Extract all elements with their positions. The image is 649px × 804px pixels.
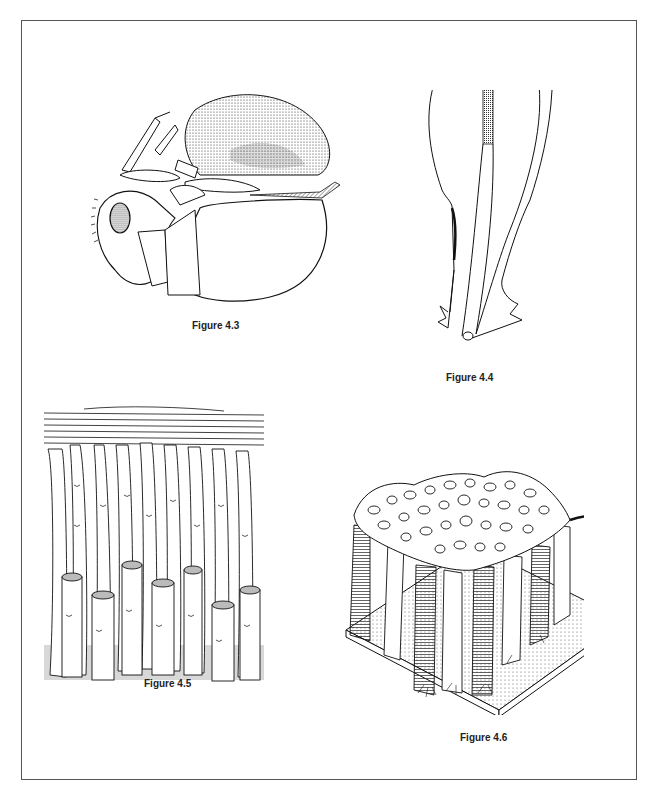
insect-head-drawing [60,90,350,310]
figure-4-3-caption: Figure 4.3 [192,320,239,331]
figure-4-3-illustration [60,90,350,310]
perforated-plate-block-drawing [344,455,584,715]
figure-4-4-illustration [410,90,580,350]
figure-4-5-illustration [44,405,270,685]
columnar-structure-drawing [44,405,270,685]
figure-4-6-caption: Figure 4.6 [460,732,507,743]
figure-4-5-caption: Figure 4.5 [144,678,191,689]
figure-4-4-caption: Figure 4.4 [446,372,493,383]
figure-4-6-illustration [344,455,584,715]
mouthpart-stylets-drawing [410,90,580,350]
